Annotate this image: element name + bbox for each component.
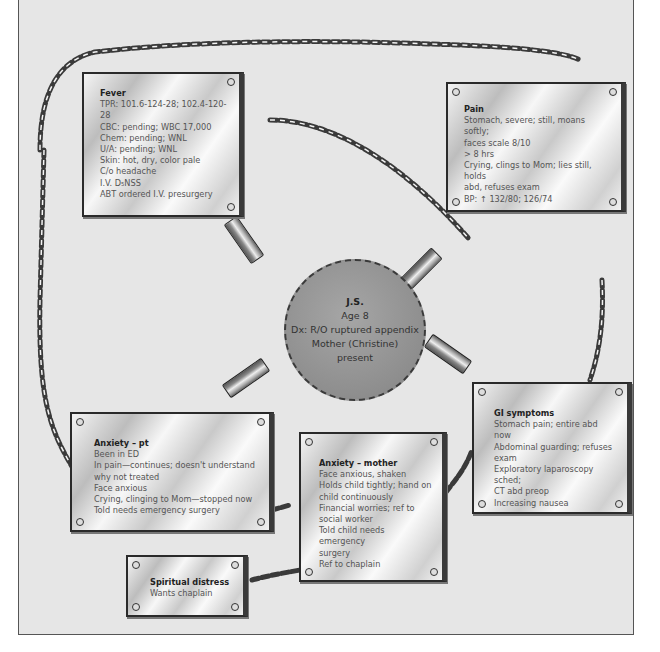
node-line: why not treated [94,472,259,483]
node-line: U/A: pending; WNL [100,144,229,155]
node-line: Holds child tightly; hand on [319,480,432,491]
node-line: BP: ↑ 132/80; 126/74 [464,194,611,205]
node-line: Stomach pain; entire abd now [494,419,617,441]
node-line: Financial worries; ref to [319,503,432,514]
node-line: CT abd preop [494,486,617,497]
screw-icon [76,518,84,526]
node-pain: Pain Stomach, severe; still, moans softl… [446,82,626,212]
screw-icon [305,568,313,576]
screw-icon [615,500,623,508]
screw-icon [430,438,438,446]
node-line: abd, refuses exam [464,182,611,193]
node-line: faces scale 8/10 [464,138,611,149]
node-line: I.V. D₅NSS [100,178,229,189]
node-line: TPR: 101.6-124-28; 102.4-120-28 [100,99,229,121]
screw-icon [452,88,460,96]
node-spiritual-distress: Spiritual distress Wants chaplain [126,555,248,617]
node-line: Told child needs emergency [319,525,432,547]
node-line: Crying, clings to Mom; lies still, holds [464,160,611,182]
node-line: Crying, clinging to Mom—stopped now [94,494,259,505]
node-line: child continuously [319,492,432,503]
node-line: Chem: pending; WNL [100,133,229,144]
node-title: GI symptoms [494,408,617,419]
screw-icon [615,388,623,396]
node-line: Been in ED [94,449,259,460]
node-title: Anxiety – mother [319,458,432,469]
screw-icon [231,603,239,611]
screw-icon [478,500,486,508]
patient-name: J.S. [286,295,424,309]
screw-icon [227,78,235,86]
screw-icon [609,198,617,206]
node-anxiety-mother: Anxiety – mother Face anxious, shaken Ho… [299,432,447,582]
node-line: Stomach, severe; still, moans softly; [464,115,611,137]
node-title: Anxiety – pt [94,438,259,449]
screw-icon [609,88,617,96]
screw-icon [231,561,239,569]
node-line: Abdominal guarding; refuses [494,442,617,453]
node-line: Skin: hot, dry, color pale [100,155,229,166]
node-line: > 8 hrs [464,149,611,160]
node-gi-symptoms: GI symptoms Stomach pain; entire abd now… [472,382,632,514]
node-line: In pain—continues; doesn't understand [94,460,259,471]
node-title: Fever [100,88,229,99]
node-line: Face anxious [94,483,259,494]
center-line: Age 8 [286,309,424,323]
node-line: ABT ordered I.V. presurgery [100,189,229,200]
node-title: Pain [464,104,611,115]
node-line: C/o headache [100,166,229,177]
screw-icon [257,518,265,526]
node-line: Increasing nausea [494,498,617,509]
node-line: social worker [319,514,432,525]
node-line: CBC: pending; WBC 17,000 [100,122,229,133]
node-title: Spiritual distress [150,577,233,588]
node-fever: Fever TPR: 101.6-124-28; 102.4-120-28 CB… [82,72,244,217]
screw-icon [430,568,438,576]
node-line: Face anxious, shaken [319,469,432,480]
screw-icon [257,418,265,426]
screw-icon [132,561,140,569]
node-line: Ref to chaplain [319,559,432,570]
node-line: Exploratory laparoscopy sched; [494,464,617,486]
screw-icon [76,418,84,426]
node-line: Told needs emergency surgery [94,505,259,516]
screw-icon [132,603,140,611]
screw-icon [478,388,486,396]
screw-icon [305,438,313,446]
center-line: present [286,351,424,365]
node-line: Wants chaplain [150,588,233,599]
node-line: exam [494,453,617,464]
center-line: Dx: R/O ruptured appendix [286,323,424,337]
center-patient: J.S. Age 8 Dx: R/O ruptured appendix Mot… [284,259,426,401]
screw-icon [227,203,235,211]
center-line: Mother (Christine) [286,337,424,351]
node-line: surgery [319,548,432,559]
node-anxiety-pt: Anxiety – pt Been in ED In pain—continue… [70,412,274,532]
screw-icon [452,198,460,206]
